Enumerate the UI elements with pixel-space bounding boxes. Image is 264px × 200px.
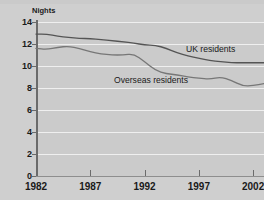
- line-chart: Nights 14121086420 19821987199219972002 …: [0, 0, 264, 200]
- series-lines: [0, 0, 264, 200]
- overseas-residents-series-label: Overseas residents: [114, 75, 188, 85]
- uk-residents-series-label: UK residents: [186, 44, 235, 54]
